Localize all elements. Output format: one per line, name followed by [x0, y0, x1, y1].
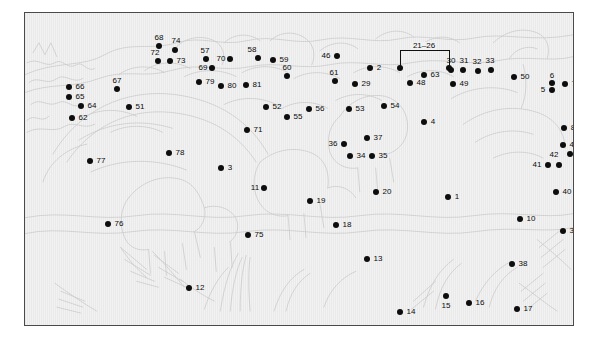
marker-label-14: 14 — [407, 308, 416, 316]
marker-dot-66[interactable] — [66, 84, 72, 90]
marker-dot-51[interactable] — [126, 104, 132, 110]
marker-label-41: 41 — [533, 161, 542, 169]
marker-dot-50[interactable] — [511, 74, 517, 80]
marker-dot-64[interactable] — [78, 103, 84, 109]
marker-dot-42[interactable] — [556, 162, 562, 168]
marker-dot-39[interactable] — [560, 228, 566, 234]
marker-dot-5[interactable] — [549, 87, 555, 93]
marker-dot-47[interactable] — [560, 142, 566, 148]
marker-dot-20[interactable] — [373, 189, 379, 195]
marker-label-7: 7 — [572, 80, 574, 88]
marker-dot-7[interactable] — [562, 81, 568, 87]
marker-dot-40[interactable] — [553, 189, 559, 195]
marker-label-46: 46 — [322, 52, 331, 60]
marker-dot-61[interactable] — [332, 78, 338, 84]
marker-dot-37[interactable] — [364, 135, 370, 141]
marker-dot-73[interactable] — [167, 58, 173, 64]
marker-dot-36[interactable] — [341, 141, 347, 147]
marker-label-54: 54 — [391, 102, 400, 110]
marker-label-31: 31 — [460, 57, 469, 65]
marker-dot-2[interactable] — [367, 65, 373, 71]
marker-dot-81[interactable] — [243, 82, 249, 88]
marker-label-12: 12 — [196, 284, 205, 292]
group-bracket-label: 21–26 — [411, 42, 437, 50]
marker-label-63: 63 — [431, 71, 440, 79]
marker-dot-13[interactable] — [364, 256, 370, 262]
marker-dot-77[interactable] — [87, 158, 93, 164]
marker-dot-16[interactable] — [466, 300, 472, 306]
marker-dot-72[interactable] — [155, 58, 161, 64]
marker-label-77: 77 — [97, 157, 106, 165]
marker-label-4: 4 — [431, 118, 435, 126]
group-bracket-right-tick — [449, 50, 450, 68]
marker-dot-15[interactable] — [443, 293, 449, 299]
marker-dot-1[interactable] — [445, 194, 451, 200]
marker-dot-18[interactable] — [333, 222, 339, 228]
marker-dot-55[interactable] — [284, 114, 290, 120]
marker-label-74: 74 — [172, 37, 181, 45]
marker-dot-48[interactable] — [407, 80, 413, 86]
marker-dot-8[interactable] — [561, 125, 567, 131]
marker-dot-54[interactable] — [381, 103, 387, 109]
marker-label-3: 3 — [228, 164, 232, 172]
marker-dot-34[interactable] — [347, 153, 353, 159]
marker-dot-69[interactable] — [209, 65, 215, 71]
marker-dot-49[interactable] — [450, 81, 456, 87]
marker-dot-52[interactable] — [263, 104, 269, 110]
marker-dot-14[interactable] — [397, 309, 403, 315]
marker-dot-58[interactable] — [255, 55, 261, 61]
marker-label-70: 70 — [217, 55, 226, 63]
marker-dot-33[interactable] — [488, 67, 494, 73]
marker-label-30: 30 — [447, 57, 456, 65]
marker-dot-78[interactable] — [166, 150, 172, 156]
marker-label-75: 75 — [255, 231, 264, 239]
marker-label-2: 2 — [377, 64, 381, 72]
marker-dot-60[interactable] — [284, 73, 290, 79]
marker-dot-46[interactable] — [334, 53, 340, 59]
marker-dot-38[interactable] — [509, 261, 515, 267]
marker-label-71: 71 — [254, 126, 263, 134]
marker-dot-35[interactable] — [369, 153, 375, 159]
marker-label-60: 60 — [283, 64, 292, 72]
marker-dot-11[interactable] — [261, 185, 267, 191]
marker-dot-71[interactable] — [244, 127, 250, 133]
marker-dot-4[interactable] — [421, 119, 427, 125]
marker-dot-59[interactable] — [270, 57, 276, 63]
marker-dot-41[interactable] — [545, 162, 551, 168]
marker-label-53: 53 — [356, 105, 365, 113]
illustration-plate: 1234567891011121314151617181920293031323… — [24, 12, 574, 326]
marker-dot-56[interactable] — [306, 106, 312, 112]
marker-label-57: 57 — [201, 47, 210, 55]
marker-dot-45[interactable] — [567, 151, 573, 157]
marker-dot-67[interactable] — [114, 86, 120, 92]
marker-dot-63[interactable] — [421, 72, 427, 78]
marker-dot-29[interactable] — [352, 81, 358, 87]
marker-dot-19[interactable] — [307, 198, 313, 204]
marker-label-11: 11 — [251, 184, 259, 192]
marker-label-39: 39 — [570, 227, 574, 235]
marker-dot-79[interactable] — [196, 79, 202, 85]
marker-dot-10[interactable] — [517, 216, 523, 222]
marker-dot-70[interactable] — [227, 56, 233, 62]
marker-dot-80[interactable] — [218, 83, 224, 89]
marker-dot-3[interactable] — [218, 165, 224, 171]
marker-dot-65[interactable] — [66, 94, 72, 100]
marker-label-76: 76 — [115, 220, 124, 228]
marker-dot-12[interactable] — [186, 285, 192, 291]
marker-dot-62[interactable] — [69, 115, 75, 121]
marker-dot-57[interactable] — [203, 56, 209, 62]
marker-dot-74[interactable] — [172, 47, 178, 53]
marker-dot-53[interactable] — [346, 106, 352, 112]
marker-dot-75[interactable] — [245, 232, 251, 238]
marker-dot-17[interactable] — [514, 306, 520, 312]
marker-dot-31[interactable] — [460, 67, 466, 73]
marker-label-56: 56 — [316, 105, 325, 113]
marker-dot-76[interactable] — [105, 221, 111, 227]
marker-dot-6[interactable] — [549, 80, 555, 86]
marker-dot-32[interactable] — [475, 68, 481, 74]
marker-label-8: 8 — [571, 124, 574, 132]
figure-root: 1234567891011121314151617181920293031323… — [0, 0, 598, 338]
marker-label-5: 5 — [541, 86, 545, 94]
marker-label-29: 29 — [362, 80, 371, 88]
marker-overlay: 1234567891011121314151617181920293031323… — [25, 13, 573, 325]
